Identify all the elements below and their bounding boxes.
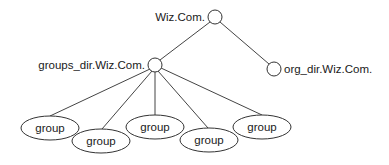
groups-dir-node-label: groups_dir.Wiz.Com.	[38, 59, 145, 71]
org-dir-node-label: org_dir.Wiz.Com.	[284, 63, 372, 75]
group-label: group	[35, 122, 64, 134]
root-node-circle[interactable]	[208, 10, 222, 24]
group-label: group	[194, 134, 223, 146]
group-label: group	[247, 121, 276, 133]
root-node-label: Wiz.Com.	[155, 11, 205, 23]
group-node-5[interactable]: group	[233, 115, 291, 139]
groups-dir-node-circle[interactable]	[148, 58, 162, 72]
edge-root-groups-dir	[160, 22, 210, 60]
group-node-4[interactable]: group	[180, 128, 238, 152]
group-label: group	[86, 135, 115, 147]
tree-diagram: Wiz.Com. groups_dir.Wiz.Com. org_dir.Wiz…	[0, 0, 389, 165]
org-dir-node-circle[interactable]	[267, 62, 281, 76]
edge-groups-dir-group-1	[50, 69, 150, 116]
group-node-1[interactable]: group	[21, 116, 79, 140]
group-node-2[interactable]: group	[72, 129, 130, 153]
edge-root-org-dir	[220, 22, 269, 64]
group-label: group	[140, 121, 169, 133]
group-node-3[interactable]: group	[126, 115, 184, 139]
